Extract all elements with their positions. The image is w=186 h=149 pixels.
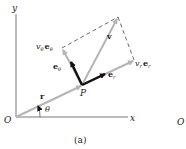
vr-er-label: vrer [135, 58, 151, 69]
vtheta-etheta-label: vθeθ [36, 41, 53, 52]
unit-vector-e-theta [71, 62, 82, 85]
velocity-label: v [106, 31, 112, 41]
x-axis-label: x [130, 113, 135, 123]
position-vector-label: r [40, 91, 45, 101]
figure-caption: (a) [74, 135, 86, 145]
theta-arc-icon [38, 106, 40, 117]
theta-label: θ [45, 105, 50, 114]
e-r-label: er [108, 69, 116, 80]
dashed-line-right [118, 17, 134, 60]
point-label: P [79, 88, 87, 98]
cropped-next-figure-label: O [177, 117, 185, 127]
polar-velocity-diagram: y x O θ r P v eθ er vθeθ vrer (a) O [0, 0, 186, 149]
origin-label: O [4, 115, 12, 125]
e-theta-label: eθ [53, 61, 61, 72]
y-axis-label: y [11, 3, 18, 13]
